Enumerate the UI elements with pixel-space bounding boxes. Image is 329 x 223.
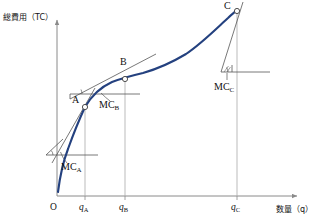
marker-point-b[interactable] — [122, 76, 127, 81]
x-tick-marks-group — [85, 196, 237, 200]
axes-group — [57, 20, 297, 196]
x-tick-label-c-sub: C — [236, 206, 240, 213]
mc-a-label: MCA — [61, 162, 82, 172]
chart-canvas — [0, 0, 329, 223]
origin-label: O — [50, 203, 57, 213]
point-b-label: B — [120, 57, 127, 67]
x-axis-title: 数量（q） — [276, 206, 313, 214]
point-a-label: A — [72, 95, 79, 105]
mc-c-label-sub: C — [230, 86, 235, 94]
tc-curve-figure: 総費用（TC） 数量（q） O A B C MCA MCB MCC qA qB … — [0, 0, 329, 223]
x-tick-label-b-sub: B — [124, 206, 128, 213]
point-c-label: C — [224, 1, 231, 11]
tangent-line-c — [221, 2, 243, 72]
tangent-c-group — [221, 2, 270, 80]
mc-b-label-sub: B — [115, 104, 120, 112]
tangent-b-group — [70, 54, 156, 101]
mc-c-label: MCC — [214, 82, 234, 92]
mc-b-label-text: MC — [99, 99, 115, 110]
x-tick-label-a-sub: A — [84, 206, 89, 213]
point-markers-group — [82, 8, 239, 109]
mc-a-label-sub: A — [77, 166, 82, 174]
mc-a-label-text: MC — [61, 161, 77, 172]
mc-a-angle-arc — [51, 151, 53, 155]
x-tick-label-a: qA — [79, 203, 88, 213]
x-tick-label-b: qB — [119, 203, 128, 213]
y-axis-title: 総費用（TC） — [3, 14, 53, 22]
x-tick-label-c: qC — [231, 203, 240, 213]
marker-point-c[interactable] — [234, 8, 239, 13]
mc-b-label: MCB — [99, 100, 119, 110]
tangent-line-b — [70, 54, 156, 99]
marker-point-a[interactable] — [82, 104, 87, 109]
mc-c-label-text: MC — [214, 81, 230, 92]
